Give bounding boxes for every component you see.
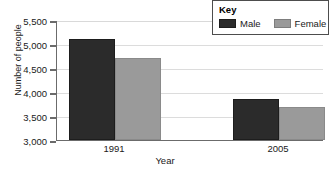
x-axis-title: Year xyxy=(0,155,330,166)
bar-1991-female xyxy=(115,58,161,140)
bar-1991-male xyxy=(69,39,115,140)
y-axis-tick-label: 4,500 xyxy=(3,64,47,75)
y-axis-tick-label: 3,500 xyxy=(3,112,47,123)
y-axis-tick-label: 4,000 xyxy=(3,88,47,99)
legend-title: Key xyxy=(219,4,323,15)
bar-2005-male xyxy=(233,99,279,140)
legend-entries: Male Female xyxy=(219,18,323,29)
legend-item-male: Male xyxy=(219,18,261,29)
female-swatch-icon xyxy=(274,19,291,28)
legend-label-female: Female xyxy=(295,18,327,29)
y-axis-tick-label: 5,000 xyxy=(3,40,47,51)
plot-area xyxy=(56,21,323,141)
y-axis-tick-label: 3,000 xyxy=(3,136,47,147)
legend: Key Male Female xyxy=(212,0,329,35)
legend-item-female: Female xyxy=(274,18,327,29)
y-axis-tick-label: 5,500 xyxy=(3,16,47,27)
bar-chart: Number of people 5,500 5,000 4,500 4,000… xyxy=(0,0,330,169)
x-axis-tick-label: 1991 xyxy=(103,143,124,154)
x-axis-tick-label: 2005 xyxy=(267,143,288,154)
bar-2005-female xyxy=(279,107,325,140)
male-swatch-icon xyxy=(219,19,236,28)
y-axis-tick xyxy=(50,141,56,143)
legend-label-male: Male xyxy=(240,18,261,29)
